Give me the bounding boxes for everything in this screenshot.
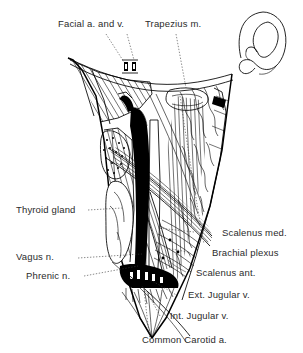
label-facial-vessels: Facial a. and v.: [58, 19, 124, 29]
label-scalenus-medius: Scalenus med.: [222, 228, 287, 238]
label-trapezius: Trapezius m.: [145, 19, 201, 29]
figure-canvas: [0, 0, 303, 353]
ear-inset-drawing: [239, 12, 286, 74]
label-internal-jugular: Int. Jugular v.: [170, 311, 229, 321]
label-vagus-nerve: Vagus n.: [16, 252, 54, 262]
label-thyroid-gland: Thyroid gland: [16, 205, 76, 215]
label-common-carotid: Common Carotid a.: [142, 335, 227, 345]
vessel-ligature-clips: [122, 60, 138, 73]
label-brachial-plexus: Brachial plexus: [212, 248, 279, 258]
label-external-jugular: Ext. Jugular v.: [188, 290, 250, 300]
label-phrenic-nerve: Phrenic n.: [26, 271, 70, 281]
label-scalenus-anterior: Scalenus ant.: [196, 268, 256, 278]
anatomical-figure: Facial a. and v. Trapezius m. Thyroid gl…: [0, 0, 303, 353]
internal-jugular-vein: [130, 108, 149, 282]
